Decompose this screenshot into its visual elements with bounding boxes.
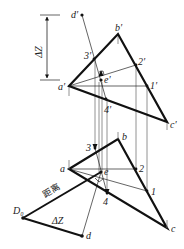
- label-1-prime: 1′: [150, 80, 158, 91]
- point-e-prime: [99, 78, 102, 81]
- label-1: 1: [151, 186, 156, 197]
- point-3-prime: [93, 58, 96, 61]
- point-d-prime: [80, 13, 83, 16]
- point-3: [94, 147, 97, 150]
- point-D0: [21, 216, 25, 220]
- label-2: 2: [139, 163, 144, 174]
- point-2-prime: [135, 64, 138, 67]
- label-d: d: [86, 230, 92, 241]
- label-e-prime: e′: [104, 74, 111, 85]
- label-b-prime: b′: [115, 22, 123, 33]
- label-e: e: [104, 166, 109, 177]
- label-4-prime: 4′: [104, 104, 112, 115]
- delta-z-dimension-top: ΔZ: [33, 15, 60, 80]
- triangle-abc-top: [69, 139, 167, 228]
- projection-diagram: ΔZ d′ b′: [0, 0, 184, 249]
- label-c: c: [171, 223, 176, 234]
- tick-marks-top: [69, 132, 167, 228]
- label-3: 3: [85, 142, 91, 153]
- point-4-prime: [105, 98, 108, 101]
- label-b: b: [122, 131, 127, 142]
- label-a-prime: a′: [58, 81, 66, 92]
- point-e: [99, 170, 102, 173]
- point-2: [135, 168, 138, 171]
- point-4: [106, 192, 109, 195]
- label-a: a: [60, 163, 65, 174]
- point-1-prime: [146, 85, 149, 88]
- label-delta-z-bottom: ΔZ: [51, 215, 64, 226]
- label-2-prime: 2′: [138, 56, 146, 67]
- label-4: 4: [103, 196, 108, 207]
- label-c-prime: c′: [170, 119, 177, 130]
- point-d: [80, 234, 84, 238]
- triangle-abc-front: [69, 34, 167, 122]
- label-D0: D₀: [12, 205, 24, 216]
- label-3-prime: 3′: [83, 50, 92, 61]
- label-d-prime: d′: [71, 9, 79, 20]
- construction-lines-front: [69, 15, 147, 99]
- point-1: [146, 190, 149, 193]
- delta-z-label-top: ΔZ: [33, 46, 44, 59]
